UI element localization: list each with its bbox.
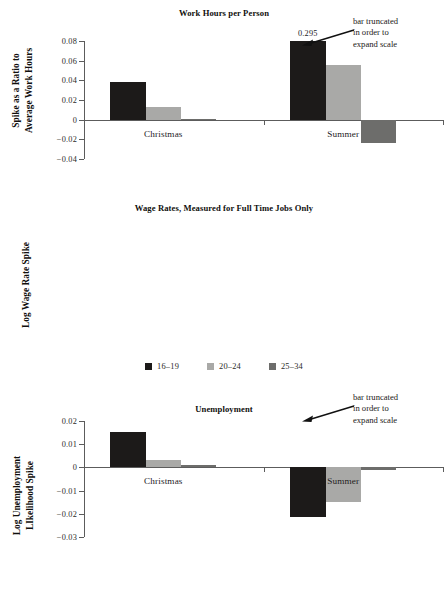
legend-label-2: 20–24 <box>219 362 241 371</box>
legend-swatch-20-24 <box>207 363 214 370</box>
panel-3-annot-line1: bar truncated <box>353 392 398 402</box>
three-panel-bar-chart-figure: Work Hours per Person Spike as a Ratio t… <box>0 0 448 593</box>
panel-1-y-tick-label: −0.04 <box>57 155 77 164</box>
panel-1-y-axis-label: Spike as a Ratio to Average Work Hours <box>10 16 35 166</box>
panel-3-annotation-arrow-icon <box>300 404 356 426</box>
panel-wage-rates: Wage Rates, Measured for Full Time Jobs … <box>0 196 448 356</box>
panel-1-y-tick <box>79 139 84 140</box>
legend-item-2[interactable]: 20–24 <box>207 362 241 371</box>
panel-1-truncation-annotation: bar truncated in order to expand scale <box>353 16 398 50</box>
legend-row: 16–1920–2425–34 <box>0 356 448 390</box>
legend-label-1: 16–19 <box>157 362 179 371</box>
panel-1-y-tick <box>79 159 84 160</box>
chart-legend: 16–1920–2425–34 <box>0 362 448 371</box>
panel-1-y-tick-label: 0 <box>73 115 77 124</box>
panel-2-title: Wage Rates, Measured for Full Time Jobs … <box>0 203 448 213</box>
panel-1-y-tick-label: 0.02 <box>62 96 77 105</box>
panel-1-plot-area: 0.080.060.040.020−0.02−0.04Christmas0.29… <box>84 41 444 159</box>
panel-1-y-tick-label: 0.08 <box>62 37 77 46</box>
panel-1-x-tick <box>84 120 85 125</box>
panel-1-y-tick <box>79 41 84 42</box>
panel-1-y-tick <box>79 100 84 101</box>
legend-swatch-16-19 <box>145 363 152 370</box>
legend-item-3[interactable]: 25–34 <box>269 362 303 371</box>
panel-unemployment: Unemployment Log Unemployment LIkelihood… <box>0 390 448 593</box>
legend-label-3: 25–34 <box>281 362 303 371</box>
bar-panel1-christmas-series1[interactable] <box>110 82 145 119</box>
panel-1-y-axis-label-line1: Spike as a Ratio to <box>11 53 21 128</box>
x-axis-group-label-summer-panel1: Summer <box>327 129 359 139</box>
panel-2-y-axis-label: Log Wage Rate Spike <box>21 215 31 355</box>
panel-3-y-axis-label-line2: LIkelihood Spike <box>24 461 34 530</box>
panel-1-y-axis-line <box>84 41 85 159</box>
panel-1-x-tick <box>264 120 265 125</box>
bar-panel1-summer-series3[interactable] <box>361 120 396 144</box>
bar-panel1-summer-series1[interactable] <box>290 41 325 120</box>
panel-3-annot-line3: expand scale <box>353 415 397 425</box>
panel-1-y-tick-label: 0.06 <box>62 56 77 65</box>
legend-item-1[interactable]: 16–19 <box>145 362 179 371</box>
x-axis-group-label-christmas-panel1: Christmas <box>144 129 183 139</box>
panel-3-annot-line2: in order to <box>353 403 389 413</box>
panel-work-hours: Work Hours per Person Spike as a Ratio t… <box>0 0 448 196</box>
panel-3-y-axis-label-line1: Log Unemployment <box>12 456 22 535</box>
panel-1-annot-line3: expand scale <box>353 39 397 49</box>
bar-panel1-summer-series2[interactable] <box>326 65 361 120</box>
panel-1-y-tick-label: −0.02 <box>57 135 77 144</box>
panel-1-annot-line1: bar truncated <box>353 16 398 26</box>
panel-1-y-tick <box>79 61 84 62</box>
panel-3-truncation-annotation: bar truncated in order to expand scale <box>353 392 398 426</box>
panel-1-y-axis-label-line2: Average Work Hours <box>23 48 33 133</box>
panel-1-y-tick <box>79 80 84 81</box>
legend-swatch-25-34 <box>269 363 276 370</box>
bar-panel1-christmas-series3[interactable] <box>181 119 216 120</box>
panel-1-y-tick-label: 0.04 <box>62 76 77 85</box>
panel-3-y-axis-label: Log Unemployment LIkelihood Spike <box>11 421 36 571</box>
panel-1-x-tick-end <box>443 120 444 125</box>
panel-1-annot-line2: in order to <box>353 27 389 37</box>
panel-1-annotation-arrow-icon <box>300 28 356 50</box>
bar-panel1-christmas-series2[interactable] <box>146 107 181 120</box>
